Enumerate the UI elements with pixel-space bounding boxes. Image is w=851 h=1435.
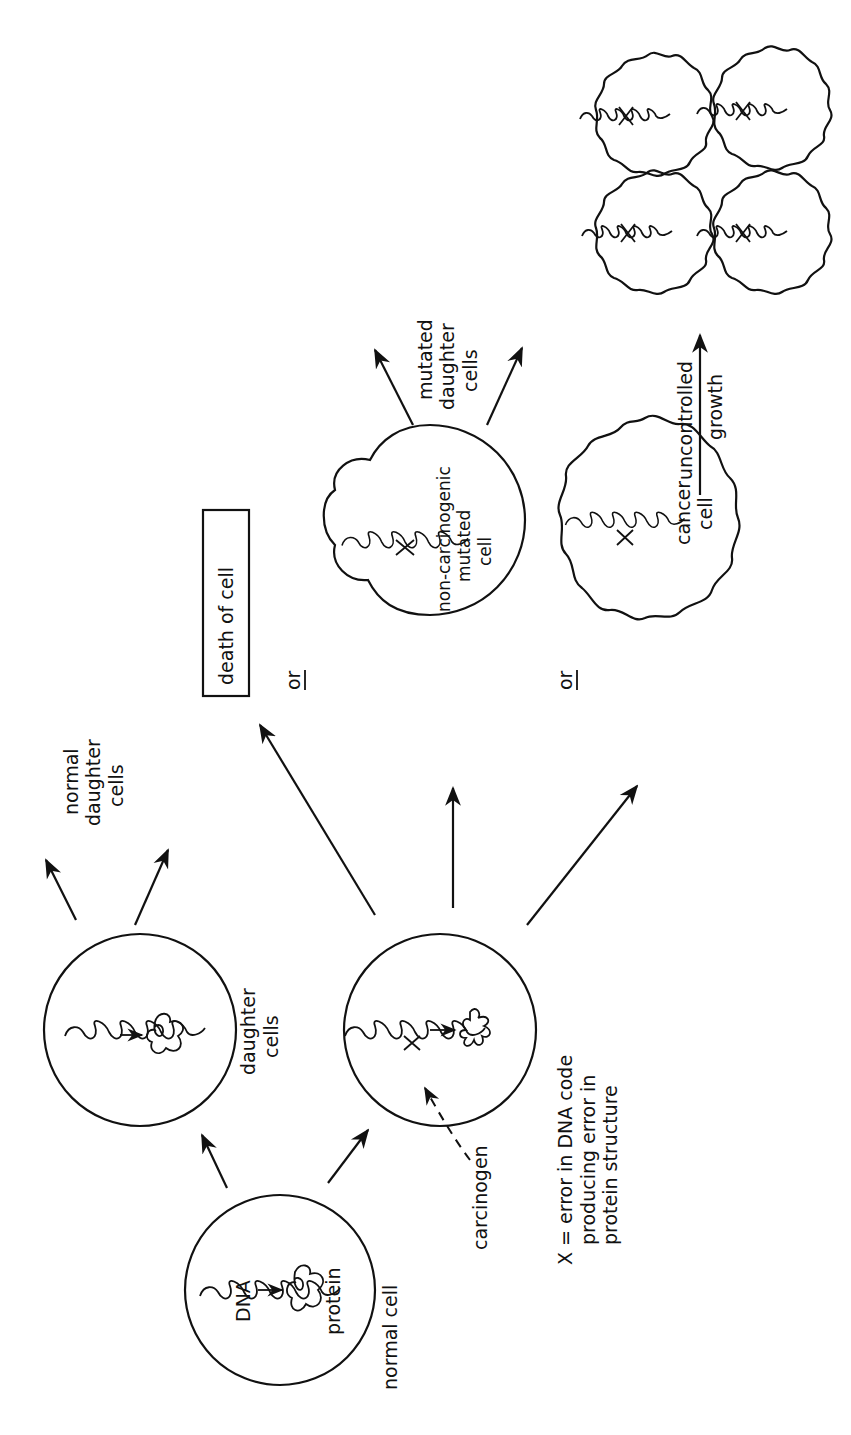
mutated-cell <box>344 934 536 1126</box>
normal-daughter-label-1: normal <box>60 748 82 815</box>
arrow-to-mutated-cell <box>328 1130 368 1183</box>
arrow-mutated-daughter-1 <box>375 350 413 425</box>
or-label-2: or <box>554 670 576 690</box>
cell-mutation-diagram: DNA protein normal cell daughter cells n… <box>0 0 851 1435</box>
protein-icon <box>147 1014 183 1053</box>
normal-cell-label: normal cell <box>379 1285 401 1390</box>
legend-line-2: producing error in <box>577 1075 599 1245</box>
cancer-cell-label-2: cell <box>694 497 716 530</box>
arrow-normal-daughter-2 <box>135 850 168 925</box>
mutated-daughter-label-3: cells <box>459 349 481 392</box>
legend-line-3: protein structure <box>599 1085 621 1245</box>
normal-daughter-label-2: daughter <box>82 739 104 826</box>
or-label-1: or <box>282 670 304 690</box>
cluster-cell-3 <box>595 170 713 294</box>
mutated-daughter-label-2: daughter <box>436 323 458 410</box>
arrow-mutated-daughter-2 <box>487 348 522 425</box>
protein-icon <box>287 1265 323 1310</box>
dna-strand-icon <box>580 107 670 125</box>
mutated-daughter-label-1: mutated <box>414 319 436 400</box>
non-carcinogenic-label-2: mutated <box>454 510 474 582</box>
daughter-cell <box>44 934 236 1126</box>
non-carcinogenic-label-3: cell <box>475 537 495 566</box>
non-carcinogenic-cell-membrane <box>324 425 525 615</box>
non-carcinogenic-cell <box>324 425 525 615</box>
growth-label-1: uncontrolled <box>674 361 696 480</box>
arrow-to-daughter-cell <box>202 1135 227 1188</box>
dna-label: DNA <box>232 1280 254 1322</box>
normal-cell: DNA protein <box>185 1195 375 1385</box>
non-carcinogenic-label-1: non-carcinogenic <box>434 466 454 612</box>
normal-daughter-label-3: cells <box>105 764 127 807</box>
death-of-cell-label: death of cell <box>215 567 237 685</box>
arrow-to-cancer-cell <box>527 786 637 925</box>
protein-label: protein <box>322 1267 344 1335</box>
cancer-cell-label-1: cancer <box>672 481 694 545</box>
daughter-cells-label-2: cells <box>260 1015 282 1058</box>
daughter-cell-membrane <box>44 934 236 1126</box>
dna-strand-icon <box>566 512 685 527</box>
daughter-cells-label-1: daughter <box>237 988 259 1075</box>
mutation-x-icon <box>404 1036 420 1050</box>
legend-line-1: X = error in DNA code <box>554 1055 576 1265</box>
arrow-normal-daughter-1 <box>46 860 76 920</box>
mutation-x-icon <box>617 530 633 545</box>
arrow-to-death <box>260 725 375 915</box>
cancer-cell-cluster <box>580 46 832 294</box>
growth-label-2: growth <box>704 374 726 440</box>
carcinogen-label: carcinogen <box>469 1145 491 1250</box>
misfolded-protein-icon <box>460 1009 490 1046</box>
